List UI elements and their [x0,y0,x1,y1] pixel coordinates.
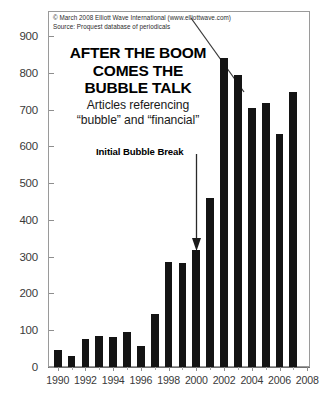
bar [151,314,159,367]
bar [192,250,200,367]
bar [95,336,103,367]
bar [165,262,173,367]
chart-screenshot: © March 2008 Elliott Wave International … [0,0,329,405]
bar [82,339,90,367]
bar [248,108,256,367]
bar [179,263,187,367]
bar [68,356,76,367]
bar [123,332,131,367]
bar [137,346,145,367]
bar [289,92,297,367]
bar [54,350,62,367]
bar [262,103,270,367]
bar [276,134,284,367]
bars-layer [0,0,329,405]
bar [220,58,228,367]
bar [206,198,214,367]
bar [109,337,117,367]
bar [234,75,242,367]
